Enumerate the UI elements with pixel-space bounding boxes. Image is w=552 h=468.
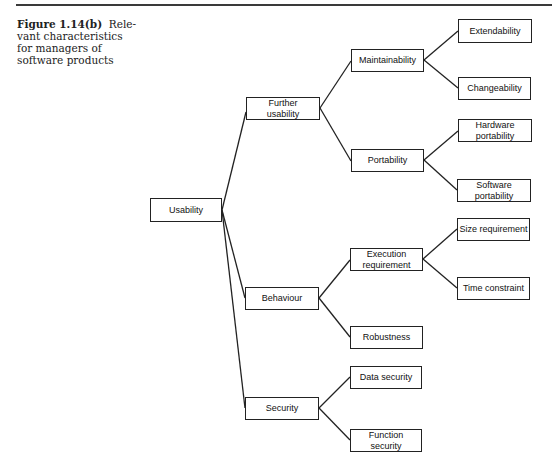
node-label: Maintainability [359,55,416,66]
node-usability: Usability [150,198,222,222]
node-label: Changeability [467,83,522,94]
node-label: Portability [368,155,408,166]
node-label: Further usability [257,98,309,120]
node-security: Security [245,397,319,420]
node-label: Execution requirement [361,249,413,271]
edge-port-software [424,160,457,190]
node-label: Security [266,403,299,414]
node-size-requirement: Size requirement [457,218,530,241]
edge-behaviour-execution [319,260,350,298]
node-label: Data security [360,372,413,383]
node-changeability: Changeability [458,77,531,100]
edge-further-maintainability [320,61,351,108]
node-label: Hardware portability [469,120,521,142]
edge-port-hardware [424,131,458,160]
node-hardware-portability: Hardware portability [458,119,532,142]
node-label: Usability [169,205,203,216]
edge-exec-time [423,259,457,288]
node-label: Function security [360,430,412,452]
edge-security-function [319,408,350,440]
node-label: Size requirement [459,224,527,235]
edge-maint-extendability [424,31,458,60]
edge-behaviour-robustness [319,298,350,337]
node-time-constraint: Time constraint [457,277,530,300]
node-robustness: Robustness [350,326,423,349]
node-behaviour: Behaviour [245,287,319,310]
node-label: Behaviour [262,293,303,304]
edge-maint-changeability [424,60,458,88]
node-data-security: Data security [350,366,422,389]
node-label: Software portability [468,180,520,202]
edge-usability-further-usability [222,112,246,210]
edge-security-data [319,377,350,408]
node-label: Extendability [469,26,520,37]
edge-usability-behaviour [222,210,245,298]
node-label: Time constraint [463,283,524,294]
node-maintainability: Maintainability [351,49,424,72]
edge-further-portability [320,108,351,161]
node-portability: Portability [351,149,424,172]
node-extendability: Extendability [458,19,532,43]
node-further-usability: Further usability [246,97,320,120]
edge-usability-security [222,210,245,408]
node-software-portability: Software portability [457,179,531,202]
node-label: Robustness [363,332,411,343]
edge-exec-size [423,229,457,259]
node-function-security: Function security [350,429,422,452]
node-execution-requirement: Execution requirement [350,248,423,271]
